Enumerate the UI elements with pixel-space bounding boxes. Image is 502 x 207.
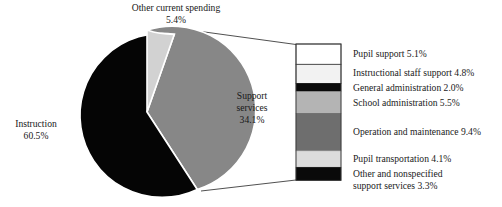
bar-segment-school-administration[interactable] (296, 91, 341, 113)
bar-segment-pupil-support[interactable] (296, 44, 341, 64)
legend-item-instructional-staff-support[interactable]: Instructional staff support 4.8% (353, 67, 474, 79)
pie-label-instruction-value: 60.5% (24, 130, 49, 141)
bar-segment-other-and-nonspecified-support-services[interactable] (296, 167, 341, 180)
pie-label-instruction: Instruction 60.5% (0, 118, 72, 142)
support-services-stacked-bar (296, 44, 341, 180)
legend-item-other-line2: support services 3.3% (353, 180, 443, 192)
bar-segment-pupil-transportation[interactable] (296, 151, 341, 167)
legend-item-other-and-nonspecified-support-services[interactable]: Other and nonspecified support services … (353, 168, 443, 191)
legend-item-operation-and-maintenance[interactable]: Operation and maintenance 9.4% (353, 126, 481, 138)
pie-label-other-current-spending-value: 5.4% (166, 14, 186, 25)
bar-segment-instructional-staff-support[interactable] (296, 64, 341, 83)
bar-segment-operation-and-maintenance[interactable] (296, 113, 341, 150)
pie-label-instruction-name: Instruction (15, 118, 57, 129)
legend-item-other-line1: Other and nonspecified (353, 168, 443, 180)
legend-item-pupil-transportation[interactable]: Pupil transportation 4.1% (353, 153, 451, 165)
pie-label-support-services-value: 34.1% (240, 114, 265, 125)
pie-label-support-services-name-line2: services (237, 102, 268, 113)
bar-segment-general-administration[interactable] (296, 83, 341, 91)
pie-label-other-current-spending: Other current spending 5.4% (106, 2, 246, 26)
legend-item-school-administration[interactable]: School administration 5.5% (353, 97, 460, 109)
pie-label-support-services: Support services 34.1% (215, 90, 289, 126)
legend-item-general-administration[interactable]: General administration 2.0% (353, 82, 464, 94)
pie-label-other-current-spending-name: Other current spending (132, 2, 220, 13)
pie-label-support-services-name-line1: Support (237, 90, 267, 101)
pie-chart-figure: Other current spending 5.4% Instruction … (0, 0, 502, 207)
legend-item-pupil-support[interactable]: Pupil support 5.1% (353, 48, 427, 60)
